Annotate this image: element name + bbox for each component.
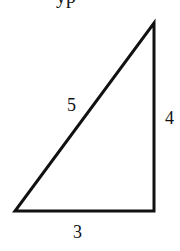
base-label: 3 [73,223,82,241]
triangle-outline [15,23,154,211]
right-triangle-shape [0,0,180,251]
triangle-diagram: yp 5 4 3 [0,0,180,251]
vertical-leg-label: 4 [165,109,174,127]
cropped-caption-text: yp [56,0,76,6]
hypotenuse-label: 5 [67,96,76,114]
